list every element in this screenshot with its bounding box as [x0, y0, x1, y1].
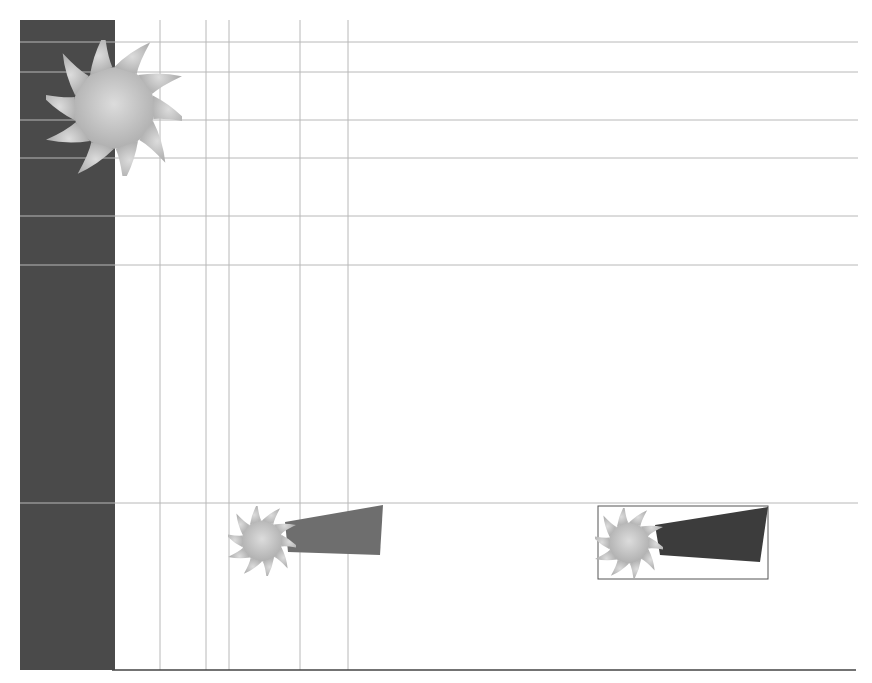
- layout-grid-diagram: [0, 0, 872, 683]
- wedge-shape-2: [655, 507, 768, 562]
- small-logo-icon-2: [592, 506, 666, 580]
- vertical-guides: [160, 20, 348, 670]
- small-logo-icon-1: [225, 504, 299, 578]
